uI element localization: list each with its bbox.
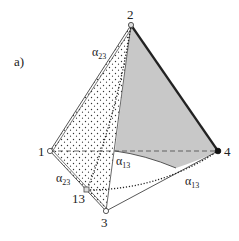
vertex-13-label: 13 <box>72 192 85 205</box>
alpha13-right-label: α13 <box>185 175 199 190</box>
vertex-2-marker <box>128 22 133 27</box>
vertex-4-marker <box>215 148 221 154</box>
panel-label: a) <box>14 55 24 68</box>
tetrahedron-figure <box>0 0 239 241</box>
vertex-3-label: 3 <box>101 216 108 229</box>
alpha13-inner-label: α13 <box>116 155 130 170</box>
vertex-3-marker <box>103 208 108 213</box>
vertex-2-label: 2 <box>127 8 134 21</box>
vertex-4-label: 4 <box>224 145 231 158</box>
vertex-1-label: 1 <box>38 145 45 158</box>
vertex-1-marker <box>47 148 52 153</box>
alpha23-top-label: α23 <box>92 46 106 61</box>
alpha23-bottom-label: α23 <box>56 172 70 187</box>
tetrahedron-diagram: a) 2 1 4 3 13 α23 α23 α13 α13 <box>0 0 239 241</box>
shaded-face <box>115 25 218 168</box>
